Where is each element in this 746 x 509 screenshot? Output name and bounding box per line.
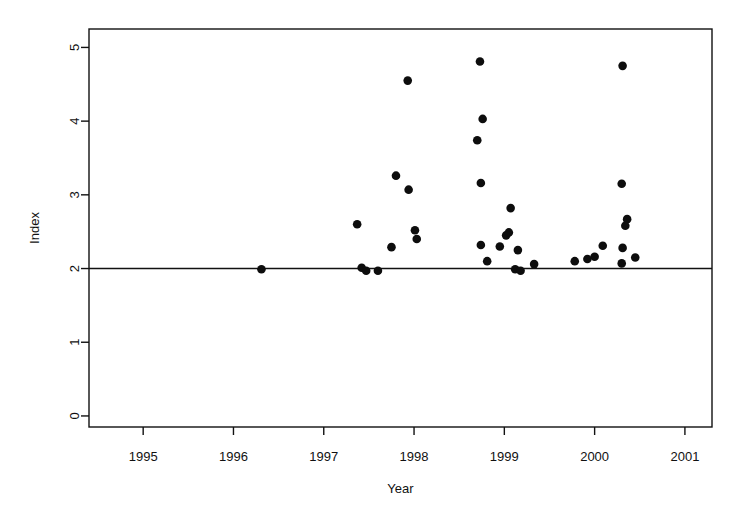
y-tick-label: 3 <box>68 191 83 198</box>
x-tick-label: 1995 <box>129 449 158 464</box>
x-axis-title: Year <box>387 481 414 496</box>
data-point <box>618 244 627 253</box>
y-tick-label: 2 <box>68 265 83 272</box>
data-point <box>516 266 525 275</box>
data-point <box>412 235 421 244</box>
x-tick-label: 1999 <box>490 449 519 464</box>
data-point <box>483 257 492 266</box>
data-point <box>403 76 412 85</box>
data-point <box>590 252 599 261</box>
data-point <box>617 179 626 188</box>
data-point <box>598 241 607 250</box>
data-point <box>473 136 482 145</box>
x-tick-label: 1997 <box>309 449 338 464</box>
x-tick-label: 1996 <box>219 449 248 464</box>
data-point <box>411 226 420 235</box>
y-tick-label: 5 <box>68 44 83 51</box>
y-tick-label: 1 <box>68 339 83 346</box>
data-point <box>404 185 413 194</box>
y-tick-label: 4 <box>68 118 83 125</box>
y-axis-title: Index <box>27 212 42 244</box>
data-point <box>570 257 579 266</box>
data-point <box>530 260 539 269</box>
data-point <box>477 179 486 188</box>
data-point <box>392 171 401 180</box>
data-point <box>514 246 523 255</box>
data-point <box>362 266 371 275</box>
data-point <box>505 228 514 237</box>
plot-canvas: 0123451995199619971998199920002001YearIn… <box>0 0 746 509</box>
data-point <box>353 220 362 229</box>
data-point <box>477 241 486 250</box>
data-point <box>476 57 485 66</box>
x-tick-label: 1998 <box>400 449 429 464</box>
data-point <box>618 62 627 71</box>
scatter-plot-figure: 0123451995199619971998199920002001YearIn… <box>0 0 746 509</box>
data-point <box>257 265 266 274</box>
data-point <box>374 266 383 275</box>
x-tick-label: 2001 <box>670 449 699 464</box>
y-tick-label: 0 <box>68 412 83 419</box>
data-point <box>387 243 396 252</box>
data-point <box>617 259 626 268</box>
plot-frame <box>89 29 712 427</box>
data-point <box>631 253 640 262</box>
data-point <box>621 221 630 230</box>
x-tick-label: 2000 <box>580 449 609 464</box>
data-point <box>496 242 505 251</box>
data-point <box>506 204 515 213</box>
data-point <box>478 115 487 124</box>
